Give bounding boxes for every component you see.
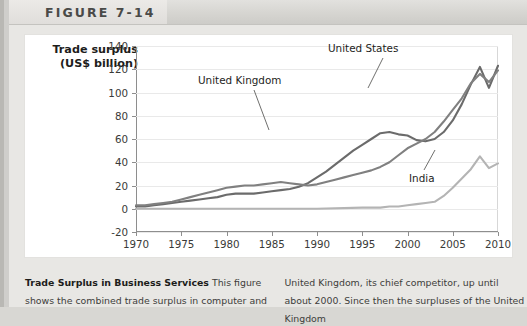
- x-axis-tick-label: 2000: [394, 238, 420, 250]
- page-left-rule: [0, 0, 4, 307]
- figure-header-bar: FIGURE 7-14: [9, 0, 527, 25]
- x-axis-tick: [317, 232, 318, 236]
- y-axis-tick-label: 40: [115, 156, 128, 168]
- x-axis-tick-label: 1975: [168, 238, 194, 250]
- y-axis-tick-label: 120: [108, 63, 128, 75]
- x-axis-tick: [227, 232, 228, 236]
- x-axis-tick: [498, 232, 499, 236]
- x-axis-tick: [362, 232, 363, 236]
- y-axis-tick-label: 60: [115, 133, 128, 145]
- figure-number-label: FIGURE 7-14: [45, 5, 156, 20]
- series-label-india: India: [409, 172, 435, 184]
- x-axis-tick-label: 1970: [123, 238, 149, 250]
- caption-title: Trade Surplus in Business Services: [25, 277, 209, 288]
- x-axis-tick-label: 1985: [259, 238, 285, 250]
- y-axis-tick-label: 100: [108, 87, 128, 99]
- caption-column-left: Trade Surplus in Business Services This …: [25, 272, 268, 307]
- x-axis-tick-label: 1980: [213, 238, 239, 250]
- plot-area: 140120100806040200-20 197019751980198519…: [136, 46, 498, 232]
- x-axis-tick: [453, 232, 454, 236]
- annotation-leader-lines: [136, 46, 498, 232]
- x-axis-tick: [136, 232, 137, 236]
- figure-caption: Trade Surplus in Business Services This …: [25, 272, 527, 307]
- x-axis-tick: [408, 232, 409, 236]
- x-axis-tick-label: 1995: [349, 238, 375, 250]
- x-axis-tick-label: 2010: [485, 238, 511, 250]
- x-axis-tick: [272, 232, 273, 236]
- series-label-united-kingdom: United Kingdom: [198, 74, 281, 86]
- x-axis-tick: [181, 232, 182, 236]
- caption-right-text: United Kingdom, its chief competitor, up…: [285, 277, 525, 324]
- caption-column-right: United Kingdom, its chief competitor, up…: [285, 272, 527, 307]
- series-label-united-states: United States: [328, 42, 398, 54]
- y-axis-tick-label: -20: [111, 226, 128, 238]
- y-axis-tick-label: 0: [121, 203, 128, 215]
- y-axis-tick-label: 80: [115, 110, 128, 122]
- x-axis-tick-label: 2005: [440, 238, 466, 250]
- y-axis-tick-label: 20: [115, 180, 128, 192]
- x-axis-tick-label: 1990: [304, 238, 330, 250]
- chart-panel: Trade surplus (US$ billion) 140120100806…: [25, 35, 512, 257]
- y-axis-tick-label: 140: [108, 40, 128, 52]
